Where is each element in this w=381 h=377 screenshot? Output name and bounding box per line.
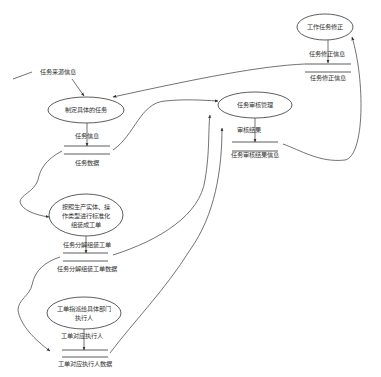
store-workorder-data[interactable]: 任务分解组装工单数据 (57, 253, 117, 273)
process-assemble-workorder[interactable]: 按照生产实体、操 作类型进行标准化 组装成工单 (49, 194, 123, 236)
store-label: 任务修正信息 (310, 74, 346, 82)
flow-label-executor: 工单对应执行人 (61, 332, 103, 340)
process-label-line2: 作类型进行标准化 (62, 212, 110, 220)
process-label-line1: 按照生产实体、操 (62, 203, 110, 211)
store-task-data[interactable]: 任务数据 (64, 146, 110, 167)
flow-label-task-info: 任务信息 (75, 132, 99, 140)
data-flow-diagram: 工作任务修正 任务修正信息 任务修正信息 任务来源信息 制定具体的任务 任务信息… (0, 0, 381, 377)
connector-workorder-to-review (113, 115, 210, 255)
process-label: 任务审核管理 (237, 101, 273, 109)
process-label-line1: 工单指派给具体部门 (57, 305, 111, 313)
connector-taskdata-to-review (113, 100, 218, 150)
store-executor-data[interactable]: 工单对应执行人数据 (58, 350, 112, 368)
process-define-task[interactable]: 制定具体的任务 (48, 97, 124, 123)
flow-label-task-source: 任务来源信息 (40, 68, 76, 76)
process-assign-executor[interactable]: 工单指派给具体部门 执行人 (47, 297, 121, 329)
flow-label-decompose: 任务分解组装工单 (63, 241, 111, 249)
connector-taskdata-to-assemble (20, 151, 62, 217)
store-label: 任务数据 (75, 159, 99, 167)
source-line (13, 72, 32, 79)
process-task-review[interactable]: 任务审核管理 (218, 92, 292, 118)
store-label: 工单对应执行人数据 (58, 360, 112, 368)
store-label: 任务分解组装工单数据 (57, 265, 117, 273)
flow-arrow-task-source (72, 79, 84, 96)
process-label-line2: 执行人 (75, 314, 93, 322)
connector-revise-to-define (113, 64, 305, 97)
process-label-line3: 组装成工单 (71, 221, 101, 229)
flow-label-review-result: 审核结果 (237, 126, 261, 134)
process-label: 工作任务修正 (307, 23, 343, 31)
process-label: 制定具体的任务 (65, 106, 107, 114)
store-revise-info[interactable]: 任务修正信息 (305, 64, 351, 82)
process-task-revision[interactable]: 工作任务修正 (297, 14, 353, 40)
connector-executor-to-review (110, 128, 222, 353)
store-review-result[interactable]: 任务审核结果信息 (231, 142, 279, 159)
flow-label-revise-info: 任务修正信息 (309, 50, 345, 58)
process-ellipse (47, 297, 121, 329)
store-label: 任务审核结果信息 (231, 151, 279, 159)
